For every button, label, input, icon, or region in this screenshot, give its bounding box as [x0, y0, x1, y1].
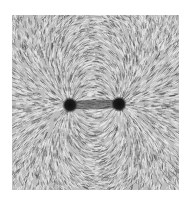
iron-filings-pattern: [12, 15, 179, 190]
field-lines-photo: [12, 15, 179, 190]
